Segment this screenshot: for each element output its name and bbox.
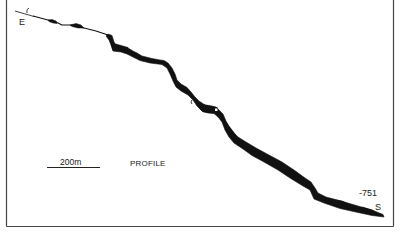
entrance-label: E bbox=[19, 18, 25, 27]
entrance-marker bbox=[15, 8, 34, 17]
profile-title: PROFILE bbox=[130, 160, 166, 168]
scale-bar-label: 200m bbox=[60, 158, 81, 167]
cave-passage bbox=[33, 16, 384, 217]
frame bbox=[7, 0, 394, 227]
passage-main bbox=[106, 34, 384, 217]
passage-stub bbox=[191, 100, 192, 104]
passage-chamber-2 bbox=[70, 24, 84, 29]
entrance-hook-icon bbox=[27, 8, 29, 13]
sump-depth-label: -751 bbox=[359, 189, 377, 198]
passage-chamber-3 bbox=[111, 44, 128, 51]
sump-label: S bbox=[375, 203, 381, 212]
surface-line bbox=[15, 11, 34, 17]
profile-canvas bbox=[0, 0, 401, 242]
passage-chamber-1 bbox=[48, 20, 57, 24]
passage-gap bbox=[215, 109, 218, 112]
